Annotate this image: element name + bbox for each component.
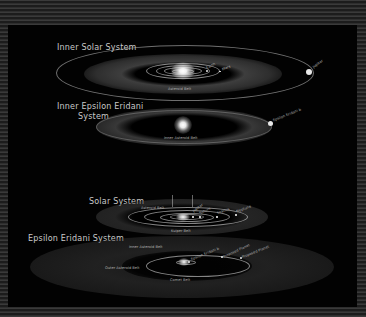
neptune-dot	[235, 214, 237, 216]
solar-asteroid-belt-label: Asteroid Belt	[141, 206, 164, 210]
guide-line-right	[192, 195, 193, 207]
mars-dot	[219, 71, 221, 73]
outer-asteroid-belt-label: Outer Asteroid Belt	[105, 266, 139, 270]
inner-asteroid-belt-label: Inner Asteroid Belt	[164, 136, 198, 140]
saturn-dot	[199, 216, 201, 218]
eps-b-dot-outer	[188, 261, 190, 263]
jupiter-dot-outer	[192, 216, 194, 218]
earth-dot	[206, 70, 208, 72]
sun-icon-outer	[176, 213, 190, 221]
guide-line-left	[172, 195, 173, 207]
inner-eps-title: Inner Epsilon Eridani	[57, 102, 144, 111]
uranus-dot	[216, 216, 218, 218]
eps-eridani-star-icon	[174, 116, 192, 134]
kuiper-belt-label: Kuiper Belt	[171, 229, 191, 233]
jupiter-dot	[306, 69, 312, 75]
inner-asteroid-belt-label-outer: Inner Asteroid Belt	[129, 245, 163, 249]
comet-belt-label: Comet Belt	[170, 278, 190, 282]
sun-icon	[171, 62, 195, 80]
eps-b-dot	[268, 121, 273, 126]
asteroid-belt-label: Asteroid Belt	[168, 87, 191, 91]
